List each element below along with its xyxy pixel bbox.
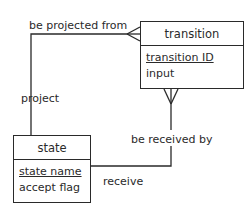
label-be-projected-from: be projected from [29,19,127,32]
entity-title: state [14,136,90,160]
entity-attributes: state name accept flag [14,160,90,196]
receive-relationship-line [91,146,171,166]
label-project: project [21,92,59,105]
entity-attributes: transition ID input [141,46,243,82]
entity-transition[interactable]: transition transition ID input [140,21,244,89]
crows-foot-transition-left-icon [127,27,140,41]
label-receive: receive [103,175,143,188]
attribute: input [146,66,243,82]
label-be-received-by: be received by [131,133,212,146]
entity-title: transition [141,22,243,46]
entity-state[interactable]: state state name accept flag [13,135,91,203]
crows-foot-transition-bottom-icon [164,89,178,104]
project-relationship-line [31,34,127,135]
attribute: accept flag [19,180,90,196]
attribute-primary-key: state name [19,164,90,180]
attribute-primary-key: transition ID [146,50,243,66]
